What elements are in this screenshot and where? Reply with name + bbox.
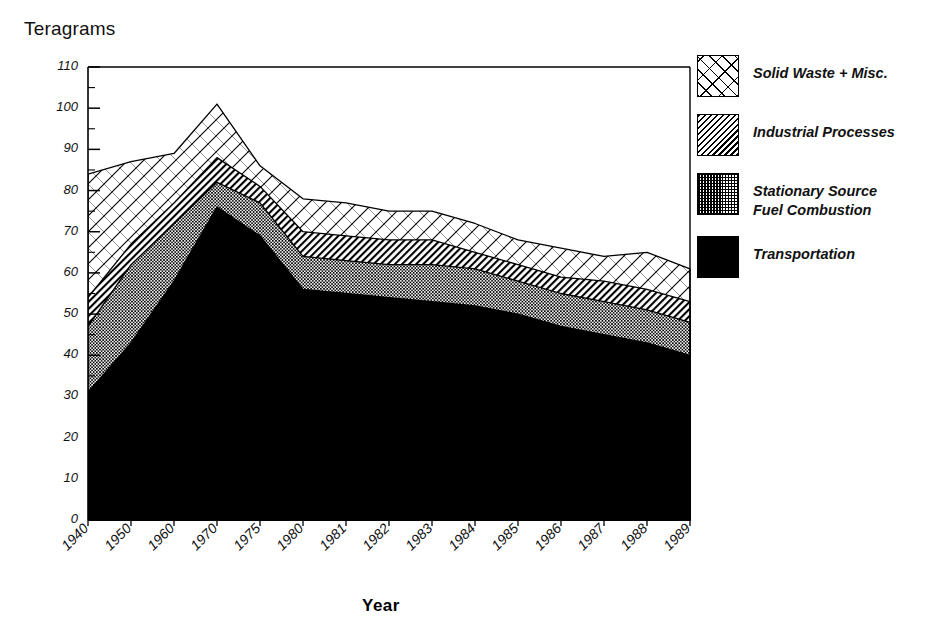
y-tick-label-0: 0 xyxy=(44,511,78,526)
y-axis-title: Teragrams xyxy=(24,18,116,40)
diagonal-hatch-swatch-icon xyxy=(697,114,739,156)
legend-label: Industrial Processes xyxy=(753,114,895,142)
solid-black-swatch-icon xyxy=(697,236,739,278)
legend-item-industrial-processes[interactable]: Industrial Processes xyxy=(697,114,937,156)
legend-item-transportation[interactable]: Transportation xyxy=(697,236,937,278)
cross-hatch-swatch-icon xyxy=(697,55,739,97)
legend-label: Stationary Source Fuel Combustion xyxy=(753,173,877,219)
y-tick-label-110: 110 xyxy=(44,58,78,73)
chart-figure: Teragrams xyxy=(0,0,944,644)
chart-legend: Solid Waste + Misc. Industrial Processes… xyxy=(697,55,937,295)
y-tick-label-100: 100 xyxy=(44,99,78,114)
legend-item-solid-waste[interactable]: Solid Waste + Misc. xyxy=(697,55,937,97)
y-tick-label-80: 80 xyxy=(44,182,78,197)
checkerboard-swatch-icon xyxy=(697,173,739,215)
y-tick-label-20: 20 xyxy=(44,429,78,444)
legend-item-stationary-source[interactable]: Stationary Source Fuel Combustion xyxy=(697,173,937,219)
y-tick-label-40: 40 xyxy=(44,346,78,361)
y-tick-label-60: 60 xyxy=(44,264,78,279)
y-tick-label-70: 70 xyxy=(44,223,78,238)
x-axis-title: Year xyxy=(362,596,400,616)
legend-label: Transportation xyxy=(753,236,855,264)
legend-label: Solid Waste + Misc. xyxy=(753,55,888,83)
y-tick-label-10: 10 xyxy=(44,470,78,485)
y-tick-label-50: 50 xyxy=(44,305,78,320)
y-tick-label-90: 90 xyxy=(44,140,78,155)
y-tick-label-30: 30 xyxy=(44,387,78,402)
